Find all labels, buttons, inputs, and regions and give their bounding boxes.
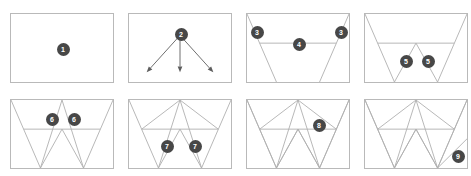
step-badge-3: 3 xyxy=(251,26,264,39)
step-badge-3: 3 xyxy=(335,26,348,39)
panel-step-4-center-peak: 55 xyxy=(364,13,468,83)
fold-arrow-head-2 xyxy=(178,66,183,72)
step-badge-7: 7 xyxy=(161,140,174,153)
fold-lines xyxy=(11,100,113,168)
fold-line-1 xyxy=(129,100,158,168)
step-badge-5: 5 xyxy=(400,55,413,68)
fold-line-5 xyxy=(394,100,437,168)
fold-line-6 xyxy=(378,100,455,129)
step-badge-6: 6 xyxy=(68,113,81,126)
step-badge-8: 8 xyxy=(313,119,326,132)
step-badge-9: 9 xyxy=(452,150,465,163)
panel-step-6-side-creases: 77 xyxy=(128,99,232,169)
fold-lines xyxy=(247,100,349,168)
step-badge-5: 5 xyxy=(422,55,435,68)
panel-step-8-finished-pattern: 9 xyxy=(364,99,468,169)
fold-lines xyxy=(365,14,467,82)
step-badge-2: 2 xyxy=(175,28,188,41)
step-badge-1: 1 xyxy=(57,43,70,56)
fold-arrow-shaft-1 xyxy=(151,35,180,68)
panel-step-2-fold-direction-arrows: 2 xyxy=(128,13,232,83)
panel-step-7-full-zigzag: 8 xyxy=(246,99,350,169)
fold-line-1 xyxy=(365,14,394,82)
fold-line-5 xyxy=(40,100,83,168)
fold-line-2 xyxy=(320,14,349,82)
panel-step-3-corner-diagonals: 334 xyxy=(246,13,350,83)
fold-line-1 xyxy=(11,100,40,168)
fold-line-2 xyxy=(438,14,467,82)
fold-line-5 xyxy=(158,100,201,168)
panel-step-1-blank-sheet: 1 xyxy=(10,13,114,83)
fold-line-5 xyxy=(276,100,319,168)
step-badge-4: 4 xyxy=(293,38,306,51)
fold-line-2 xyxy=(84,100,113,168)
step-badge-6: 6 xyxy=(46,113,59,126)
fold-line-7 xyxy=(247,100,349,168)
fold-line-1 xyxy=(247,14,276,82)
fold-line-6 xyxy=(142,100,219,129)
folding-instruction-figure: 1233455667789 xyxy=(0,0,471,176)
panel-step-5-upper-apex: 66 xyxy=(10,99,114,169)
fold-lines xyxy=(129,14,231,82)
step-badge-7: 7 xyxy=(189,140,202,153)
fold-lines xyxy=(129,100,231,168)
fold-line-2 xyxy=(202,100,231,168)
